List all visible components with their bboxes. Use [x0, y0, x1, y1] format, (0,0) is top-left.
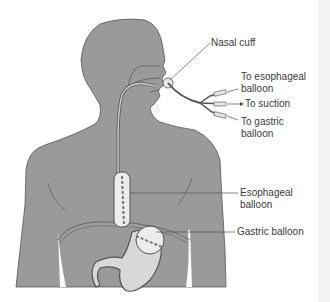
leader-to-gastric	[227, 116, 238, 120]
label-to-gastric-balloon-1: To gastric	[241, 116, 284, 128]
label-nasal-cuff: Nasal cuff	[211, 37, 255, 49]
label-gastric-balloon: Gastric balloon	[237, 226, 304, 238]
label-to-gastric-balloon-2: balloon	[241, 128, 273, 140]
label-esophageal-balloon-1: Esophageal	[240, 187, 293, 199]
gastric-balloon	[136, 226, 164, 254]
label-to-suction: To suction	[245, 98, 290, 110]
esophageal-balloon	[114, 172, 130, 227]
tube-external	[168, 83, 200, 103]
leader-to-esophageal	[227, 89, 238, 92]
tube-placement-illustration	[0, 0, 330, 302]
body-silhouette	[16, 19, 226, 287]
leader-nasal-cuff	[170, 43, 210, 80]
connector-esophageal	[214, 90, 227, 97]
label-to-esophageal-balloon-2: balloon	[241, 83, 273, 95]
arrow-to-suction	[240, 102, 244, 106]
connector-gastric	[214, 112, 227, 119]
label-esophageal-balloon-2: balloon	[240, 199, 272, 211]
connector-suction	[214, 102, 226, 106]
label-to-esophageal-balloon-1: To esophageal	[241, 71, 306, 83]
